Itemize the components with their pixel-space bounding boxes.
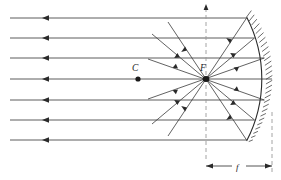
arrow-icon-incident-2 [42, 35, 49, 41]
optics-diagram-canvas: F C f [0, 0, 281, 180]
arrow-icon-incident-1 [42, 15, 49, 21]
focal-point-label: F [199, 63, 206, 73]
arrow-icon-reflected-7a [226, 115, 232, 120]
arrow-icon-incident-7 [42, 137, 49, 143]
reflected-ray-6 [152, 34, 255, 120]
arrow-icon-reflected-1a [226, 38, 232, 43]
arrow-icon-reflected-1b [181, 106, 187, 111]
arrow-icon-reflected-3a [234, 67, 239, 72]
mirror-group [247, 11, 273, 142]
arrow-icon-incident-3 [42, 55, 49, 61]
arrow-icon-reflected-7b [181, 47, 187, 52]
incident-ray-group [10, 15, 272, 143]
arrow-icon-dim-right [265, 164, 272, 169]
arrow-icon-focal-plane-top [204, 4, 209, 10]
arrow-icon-reflected-5a [234, 86, 239, 91]
center-of-curvature-dot [135, 76, 140, 81]
reflected-ray-2 [152, 38, 255, 124]
mirror-backing-hatching [247, 11, 273, 142]
arrow-icon-incident-6 [42, 117, 49, 123]
ray-diagram-svg: F C f [0, 0, 281, 180]
arrow-icon-dim-left [206, 164, 213, 169]
center-of-curvature-label: C [132, 63, 139, 73]
dim-label-backdrop [232, 160, 246, 172]
arrow-icon-incident-4 [42, 76, 49, 82]
focal-point-dot [203, 76, 210, 82]
arrow-icon-reflected-3b [173, 89, 178, 94]
focal-length-dimension: f [206, 160, 272, 172]
arrow-icon-incident-5 [42, 97, 49, 103]
arrow-icon-reflected-5b [173, 64, 178, 69]
